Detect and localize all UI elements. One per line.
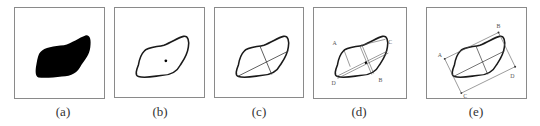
corner-b (498, 31, 500, 33)
caption-d: (d) (339, 104, 379, 120)
filled-shape (36, 35, 91, 78)
centroid-point (164, 59, 167, 62)
panel-d: A C D B (313, 7, 407, 99)
corner-a (444, 58, 446, 60)
caption-b: (b) (140, 104, 180, 120)
point-label-c: C (463, 93, 467, 99)
point-label-b: B (379, 77, 383, 83)
point-label-d: D (510, 73, 514, 79)
filled-shape-image (15, 8, 104, 98)
point-label-a: A (438, 52, 443, 58)
minor-axis-line-2 (362, 45, 374, 73)
shape-contour (335, 36, 387, 77)
caption-c: (c) (239, 104, 279, 120)
panel-b (114, 7, 205, 98)
minor-axis-line-1 (360, 46, 372, 74)
contour-bounding-rect-image: A B C D (427, 8, 526, 98)
point-label-d: D (332, 80, 336, 86)
panel-c (214, 7, 304, 98)
contour-axes-image (215, 8, 303, 97)
corner-d (514, 66, 516, 68)
caption-a: (a) (43, 104, 83, 120)
point-label-c: C (388, 39, 392, 45)
panel-a (14, 7, 105, 99)
shape-contour (236, 36, 288, 77)
chord-line-a (344, 51, 350, 67)
shape-contour (136, 36, 188, 77)
contour-centroid-image (115, 8, 204, 97)
point-label-a: A (333, 40, 338, 46)
panel-e: A B C D (426, 7, 527, 99)
corner-c (460, 92, 462, 94)
point-label-b: B (497, 23, 501, 29)
caption-e: (e) (456, 104, 496, 120)
contour-extreme-points-image: A C D B (314, 8, 406, 98)
centroid-point (365, 62, 367, 64)
